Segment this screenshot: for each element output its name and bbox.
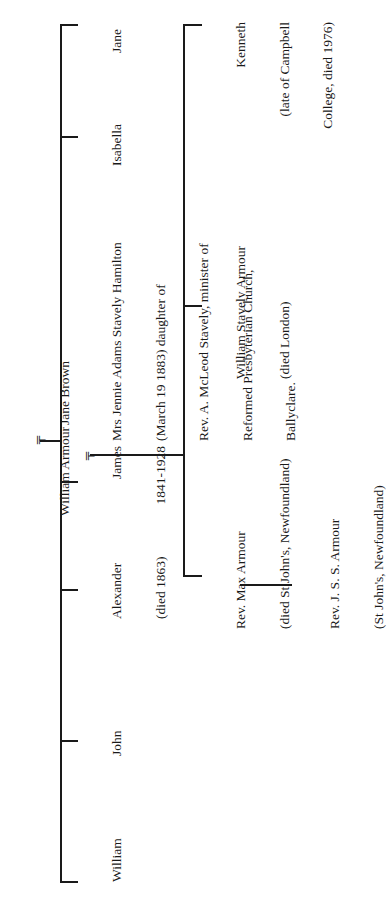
child-john: John	[81, 730, 139, 756]
grandchild-note: (late of Campbell	[278, 22, 293, 130]
tick-william-stavely	[183, 305, 202, 307]
child-alexander: Alexander (died 1863)	[81, 556, 183, 619]
grandchildren-bar	[183, 24, 185, 577]
child-jane: Jane	[81, 29, 139, 53]
great-grandchild-name: Rev. J. S. S. Armour	[328, 485, 343, 629]
grandchild-max: Rev. Max Armour (died St John's, Newfoun…	[205, 459, 307, 629]
child-note: (died 1863)	[154, 556, 169, 619]
child-dates: 1841-1928	[154, 446, 169, 514]
grandchild-william-stavely: William Stavely Armour (died London)	[205, 246, 307, 379]
spouse-line: (March 19 1883) daughter of	[154, 242, 169, 441]
child-name: William	[110, 838, 125, 882]
parents-connector	[40, 440, 62, 442]
child-isabella: Isabella	[81, 124, 139, 166]
grandchild-note: (died London)	[278, 246, 293, 379]
child-name: Isabella	[110, 124, 125, 166]
tick-james	[60, 481, 78, 483]
child-name: Jane	[110, 29, 125, 53]
max-child-connector	[240, 584, 292, 586]
james-family-connector	[90, 454, 185, 456]
grandchild-name: Kenneth	[234, 22, 249, 130]
child-name: James	[110, 446, 125, 514]
grandchild-name: Rev. Max Armour	[234, 459, 249, 629]
tick-john	[60, 740, 78, 742]
child-james: James 1841-1928	[81, 446, 183, 514]
spouse-line: Mrs Jennie Adams Stavely Hamilton	[110, 242, 125, 441]
child-william: William	[81, 838, 139, 882]
tick-alexander	[60, 589, 78, 591]
child-name: Alexander	[110, 556, 125, 619]
tick-kenneth	[183, 24, 202, 26]
tick-max	[183, 575, 202, 577]
tick-william	[60, 881, 78, 883]
tick-isabella	[60, 136, 78, 138]
great-grandchild-jss: Rev. J. S. S. Armour (St John's, Newfoun…	[299, 485, 391, 629]
children-bar	[60, 24, 62, 883]
grandchild-note: College, died 1976)	[321, 22, 336, 130]
grandchild-note: (died St John's, Newfoundland)	[278, 459, 293, 629]
parent-mother: Jane Brown	[29, 361, 87, 425]
grandchild-name: William Stavely Armour	[234, 246, 249, 379]
grandchild-kenneth: Kenneth (late of Campbell College, died …	[205, 22, 350, 130]
tick-jane	[60, 24, 78, 26]
child-name: John	[110, 730, 125, 756]
great-grandchild-note: (St John's, Newfoundland)	[372, 485, 387, 629]
